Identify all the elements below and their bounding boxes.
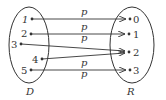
arrow-label-2: p [81,21,88,32]
range-element-0: 0 [133,14,139,25]
domain-dot-4 [41,58,44,61]
domain-dot-5 [30,69,33,72]
domain-element-1: 1 [22,14,28,25]
arrow-label-3: p [81,32,88,43]
arrow-label-1: p [81,6,88,17]
domain-element-4: 4 [32,54,38,65]
range-element-3: 3 [133,65,139,76]
domain-element-5: 5 [21,65,27,76]
range-dot-2 [128,51,131,54]
domain-set-label: D [25,86,34,97]
arrow-label-5: p [81,68,88,79]
domain-dot-3 [20,43,23,46]
domain-dot-2 [30,33,33,36]
range-set-label: R [126,86,135,97]
range-dot-0 [129,18,132,21]
range-dot-3 [129,69,132,72]
arrow-label-4: p [81,57,88,68]
domain-dot-1 [31,18,34,21]
range-element-1: 1 [133,29,139,40]
range-dot-1 [128,33,131,36]
domain-element-2: 2 [21,28,27,39]
mapping-diagram: 1 2 3 4 5 0 1 2 3 p p p p p D R [0,0,166,100]
range-set-ellipse [110,7,154,83]
domain-element-3: 3 [11,39,17,50]
arrow-3-to-2 [21,44,125,51]
range-element-2: 2 [133,47,139,58]
